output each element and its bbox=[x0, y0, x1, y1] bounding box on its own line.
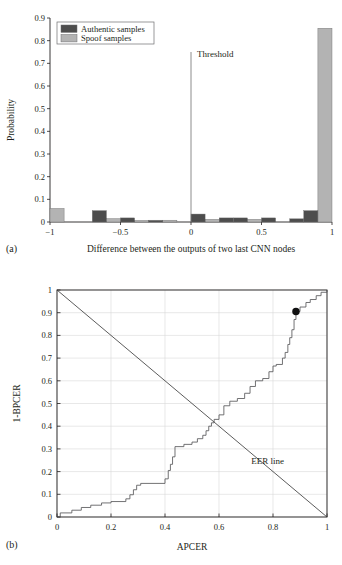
panel-a-label: (a) bbox=[6, 243, 17, 254]
histogram-bar bbox=[149, 221, 163, 222]
legend-label-spoof: Spoof samples bbox=[81, 33, 132, 43]
y-tick-label: 0.6 bbox=[41, 376, 52, 386]
histogram-bar bbox=[233, 218, 247, 222]
histogram-bar bbox=[219, 218, 233, 222]
y-tick-label: 0.8 bbox=[34, 36, 45, 46]
y-tick-label: 0.9 bbox=[41, 308, 52, 318]
panel-b-label: (b) bbox=[6, 539, 18, 550]
y-tick-label: 0.4 bbox=[34, 126, 45, 136]
y-tick-label: 0.5 bbox=[34, 104, 45, 114]
histogram-bar bbox=[92, 211, 106, 222]
y-tick-label: 0.7 bbox=[34, 58, 45, 68]
y-tick-label: 0.9 bbox=[34, 13, 45, 23]
x-tick-label: 0.6 bbox=[214, 522, 225, 532]
x-tick-label: 0.4 bbox=[160, 522, 171, 532]
panel-b-roc: 00.10.20.30.40.50.60.70.80.9100.20.40.60… bbox=[0, 265, 342, 565]
x-tick-label: 1 bbox=[325, 522, 329, 532]
y-tick-label: 0.8 bbox=[41, 330, 52, 340]
operating-point-marker bbox=[292, 308, 299, 315]
panel-a-histogram: 00.10.20.30.40.50.60.70.80.9−1−0.500.51T… bbox=[0, 0, 342, 265]
histogram-bar bbox=[262, 218, 276, 222]
roc-plot: 00.10.20.30.40.50.60.70.80.9100.20.40.60… bbox=[0, 265, 342, 565]
figure-container: 00.10.20.30.40.50.60.70.80.9−1−0.500.51T… bbox=[0, 0, 342, 565]
y-tick-label: 0.1 bbox=[34, 194, 45, 204]
histogram-bar bbox=[191, 214, 205, 222]
x-tick-label: −0.5 bbox=[113, 227, 128, 237]
x-tick-label: −1 bbox=[45, 227, 54, 237]
y-tick-label: 0.2 bbox=[41, 467, 52, 477]
threshold-label: Threshold bbox=[197, 49, 234, 59]
x-tick-label: 0.5 bbox=[256, 227, 267, 237]
x-axis-title: APCER bbox=[177, 542, 208, 552]
histogram-bar bbox=[163, 220, 177, 222]
x-tick-label: 1 bbox=[330, 227, 334, 237]
y-tick-label: 1 bbox=[48, 285, 52, 295]
y-tick-label: 0 bbox=[48, 512, 52, 522]
histogram-bar bbox=[121, 218, 135, 222]
histogram-bar bbox=[205, 219, 219, 222]
eer-line-label: EER line bbox=[251, 456, 284, 466]
y-tick-label: 0.3 bbox=[34, 149, 45, 159]
y-axis-title: Probability bbox=[6, 99, 16, 141]
x-tick-label: 0 bbox=[189, 227, 193, 237]
y-tick-label: 0.1 bbox=[41, 489, 52, 499]
histogram-bar bbox=[50, 208, 64, 222]
histogram-plot: 00.10.20.30.40.50.60.70.80.9−1−0.500.51T… bbox=[0, 0, 342, 265]
y-tick-label: 0.2 bbox=[34, 172, 45, 182]
legend-label-authentic: Authentic samples bbox=[81, 24, 145, 34]
y-tick-label: 0.4 bbox=[41, 421, 52, 431]
x-tick-label: 0.2 bbox=[106, 522, 117, 532]
y-tick-label: 0.5 bbox=[41, 399, 52, 409]
y-tick-label: 0.6 bbox=[34, 81, 45, 91]
x-axis-title: Difference between the outputs of two la… bbox=[87, 244, 296, 254]
y-tick-label: 0.3 bbox=[41, 444, 52, 454]
histogram-bar bbox=[304, 211, 318, 222]
legend-swatch-authentic bbox=[61, 25, 77, 32]
legend-swatch-spoof bbox=[61, 35, 77, 42]
histogram-bar bbox=[135, 220, 149, 222]
y-tick-label: 0 bbox=[41, 217, 45, 227]
histogram-bar bbox=[106, 219, 120, 222]
bar-series-authentic bbox=[92, 211, 318, 222]
x-tick-label: 0.8 bbox=[268, 522, 279, 532]
histogram-bar bbox=[318, 28, 332, 222]
x-tick-label: 0 bbox=[55, 522, 59, 532]
y-axis-title: 1-BPCER bbox=[12, 384, 22, 423]
histogram-bar bbox=[247, 219, 261, 222]
y-tick-label: 0.7 bbox=[41, 353, 52, 363]
histogram-bar bbox=[290, 219, 304, 222]
